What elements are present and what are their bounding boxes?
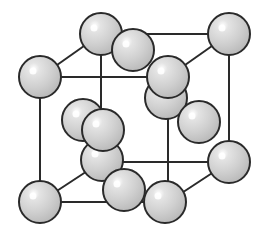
atom-corner-front-top-right — [147, 56, 189, 98]
atom-face-right — [178, 101, 220, 143]
atom-corner-front-top-left — [19, 56, 61, 98]
atom-corner-front-bottom-right — [144, 181, 186, 223]
atom-face-front — [82, 109, 124, 151]
atom-face-bottom — [103, 169, 145, 211]
atom-corner-front-bottom-left — [19, 181, 61, 223]
atom-corner-back-bottom-right — [208, 141, 250, 183]
lattice-atoms — [19, 13, 250, 223]
fcc-lattice-diagram — [0, 0, 265, 239]
atom-face-top — [112, 29, 154, 71]
atom-corner-back-top-right — [208, 13, 250, 55]
